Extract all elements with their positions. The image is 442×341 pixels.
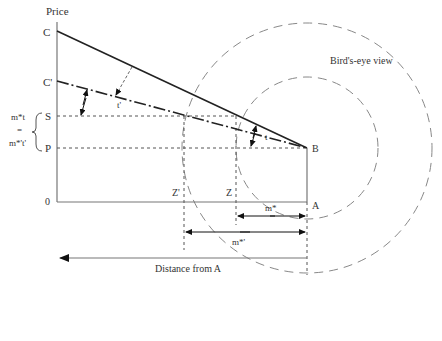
point-Z-label: Z	[226, 187, 232, 198]
distance-label-m-star-prime: m*'	[232, 237, 246, 247]
shift-arrow-left-down	[81, 98, 86, 115]
point-C-prime-label: C'	[43, 76, 52, 88]
brace-label-top: m*t	[11, 112, 26, 122]
brace-label-mid: =	[17, 125, 22, 135]
point-Z-prime-label: Z'	[172, 187, 180, 198]
price-line-C-prime-to-B	[57, 81, 307, 148]
spatial-price-diagram: Price C C' S P 0 B A Z Z' m*t = m*'t' t'…	[0, 0, 442, 341]
point-P-label: P	[45, 142, 51, 154]
distance-label-m-star: m*	[265, 203, 277, 213]
rotation-arrow-t-prime	[116, 67, 132, 95]
point-S-label: S	[45, 110, 51, 122]
birds-eye-view-label: Bird's-eye view	[330, 55, 393, 66]
shift-arrow-right-down	[251, 133, 255, 146]
slope-label-t-prime: t'	[117, 100, 122, 110]
point-C-label: C	[43, 26, 50, 38]
brace-label-bottom: m*'t'	[9, 138, 27, 148]
origin-label: 0	[45, 196, 50, 207]
point-B-label: B	[312, 143, 319, 154]
brace-icon	[32, 113, 42, 151]
price-axis-label: Price	[46, 5, 69, 17]
price-line-C-to-B	[57, 31, 307, 148]
distance-from-A-label: Distance from A	[155, 263, 222, 274]
slope-label-t: t	[265, 132, 268, 142]
point-A-label: A	[312, 200, 320, 211]
